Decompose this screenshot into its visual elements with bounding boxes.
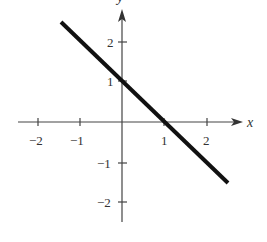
y-tick-label: 2 [107, 35, 114, 50]
x-tick-label: −1 [70, 133, 84, 148]
y-tick-label: −1 [97, 156, 111, 171]
x-tick-label: 1 [161, 133, 168, 148]
y-axis-label: y [115, 0, 124, 5]
x-axis-label: x [246, 115, 254, 130]
y-tick-label: 1 [107, 74, 114, 89]
series-line [61, 22, 228, 183]
y-tick-label: −2 [97, 195, 111, 210]
x-tick-label: −2 [29, 133, 43, 148]
coordinate-plane: x y −2 −1 1 2 2 1 −1 −2 [0, 0, 267, 242]
x-tick-label: 2 [203, 133, 210, 148]
